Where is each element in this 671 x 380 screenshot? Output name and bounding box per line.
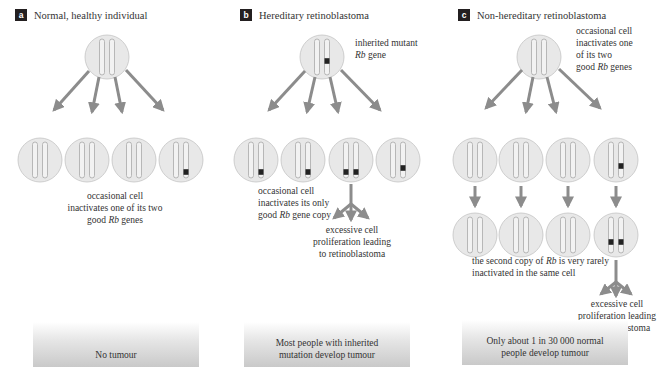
cell-parent (85, 35, 129, 79)
caption-line: the second copy of Rb is very rarely (472, 255, 609, 267)
panel-a-cells (18, 35, 203, 182)
panel-a-badge: a (15, 9, 27, 21)
growth-arrows (475, 186, 616, 206)
gene-name: Rb (108, 215, 119, 225)
label-line: to retinoblastoma (300, 248, 404, 260)
caption-line: good Rb gene copy (258, 209, 331, 221)
label-line: Rb gene (355, 49, 418, 61)
outcome-text: people develop tumour (486, 347, 603, 359)
panel-c-title-text: Non-hereditary retinoblastoma (477, 10, 606, 21)
panel-a-outcome: No tumour (33, 322, 199, 367)
panel-c-caption: the second copy of Rb is very rarely ina… (472, 255, 609, 279)
panel-a-title: a Normal, healthy individual (15, 9, 147, 21)
inherited-mutation-marker (325, 58, 330, 64)
panel-b-outcome: Most people with inherited mutation deve… (244, 322, 410, 367)
mutation-marker (184, 169, 189, 175)
gene-name: Rb (597, 62, 608, 72)
label-line: good Rb genes (576, 61, 633, 73)
panel-a-caption: occasional cell inactivates one of its t… (50, 190, 180, 226)
panel-b-title: b Hereditary retinoblastoma (240, 9, 369, 21)
caption-line: occasional cell (258, 185, 331, 197)
panel-a-title-text: Normal, healthy individual (34, 10, 147, 21)
text: genes (608, 62, 632, 72)
caption-line: inactivates its only (258, 197, 331, 209)
text: good (258, 210, 279, 220)
caption-line: occasional cell (50, 190, 180, 202)
gene-name: Rb (279, 210, 290, 220)
gene-name: Rb (355, 50, 366, 60)
label-line: excessive cell (565, 298, 669, 310)
proliferation-arrows (334, 184, 368, 220)
panel-b-caption: occasional cell inactivates its only goo… (258, 185, 331, 221)
outcome-text: Most people with inherited (276, 337, 379, 349)
text: gene (366, 50, 386, 60)
panel-c-badge: c (458, 9, 470, 21)
label-line: occasional cell (576, 25, 633, 37)
outcome-text: No tumour (95, 349, 136, 361)
caption-line: good Rb genes (50, 214, 180, 226)
text: genes (119, 215, 143, 225)
panel-b-proliferation-label: excessive cell proliferation leading to … (300, 224, 404, 260)
panel-b-inherited-label: inherited mutant Rb gene (355, 37, 418, 61)
text: good (87, 215, 108, 225)
caption-line: inactivates one of its two (50, 202, 180, 214)
panel-c-outcome: Only about 1 in 30 000 normal people dev… (462, 320, 628, 365)
gene-name: Rb (546, 256, 557, 266)
panel-b-title-text: Hereditary retinoblastoma (259, 10, 369, 21)
outcome-text: mutation develop tumour (276, 349, 379, 361)
outcome-text: Only about 1 in 30 000 normal (486, 335, 603, 347)
label-line: inherited mutant (355, 37, 418, 49)
label-line: inactivates one (576, 37, 633, 49)
text: gene copy (290, 210, 331, 220)
panel-c-top-label: occasional cell inactivates one of its t… (576, 25, 633, 73)
label-line: excessive cell (300, 224, 404, 236)
text: good (576, 62, 597, 72)
text: is very rarely (556, 256, 609, 266)
caption-line: inactivated in the same cell (472, 267, 609, 279)
label-line: proliferation leading (300, 236, 404, 248)
panel-b-badge: b (240, 9, 252, 21)
text: the second copy of (472, 256, 546, 266)
label-line: of its two (576, 49, 633, 61)
panel-c-title: c Non-hereditary retinoblastoma (458, 9, 606, 21)
